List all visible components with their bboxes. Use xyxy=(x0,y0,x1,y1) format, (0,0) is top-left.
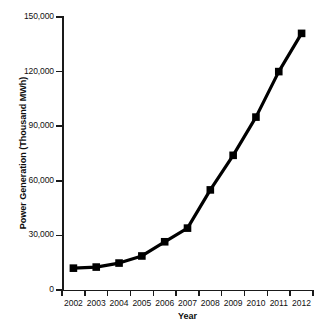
y-tick-label-0: 0 xyxy=(49,284,54,294)
y-tick-3 xyxy=(56,125,62,127)
x-tick-0 xyxy=(61,290,63,296)
data-point-marker-2008 xyxy=(207,186,215,194)
data-point-marker-2003 xyxy=(92,263,100,271)
data-point-marker-2010 xyxy=(252,113,260,121)
chart-figure: Power Generation (Thousand MWh) 030,0006… xyxy=(0,0,326,330)
y-axis-line xyxy=(62,16,64,291)
x-tick-9 xyxy=(267,290,269,296)
x-tick-1 xyxy=(84,290,86,296)
x-axis-line xyxy=(62,290,314,292)
x-tick-4 xyxy=(153,290,155,296)
x-tick-5 xyxy=(175,290,177,296)
data-point-marker-2006 xyxy=(161,238,169,246)
data-point-marker-2011 xyxy=(275,68,283,76)
y-tick-1 xyxy=(56,235,62,237)
data-point-marker-2007 xyxy=(184,224,192,232)
x-tick-7 xyxy=(221,290,223,296)
x-tick-end xyxy=(312,290,314,296)
y-tick-label-1: 30,000 xyxy=(29,229,54,239)
x-tick-label-10: 2012 xyxy=(287,298,317,308)
y-tick-5 xyxy=(56,16,62,18)
x-axis-label: Year xyxy=(62,311,313,321)
y-tick-4 xyxy=(56,71,62,73)
x-tick-8 xyxy=(244,290,246,296)
y-tick-label-5: 150,000 xyxy=(24,11,54,21)
data-point-marker-2009 xyxy=(229,152,237,160)
x-tick-6 xyxy=(198,290,200,296)
data-point-marker-2012 xyxy=(298,30,306,38)
x-tick-2 xyxy=(107,290,109,296)
y-tick-label-4: 120,000 xyxy=(24,66,54,76)
y-tick-label-group: 030,00060,00090,000120,000150,000 xyxy=(0,0,54,330)
x-tick-10 xyxy=(289,290,291,296)
x-tick-3 xyxy=(130,290,132,296)
data-point-marker-2002 xyxy=(70,264,78,272)
y-tick-2 xyxy=(56,180,62,182)
y-tick-label-2: 60,000 xyxy=(29,175,54,185)
data-point-marker-2004 xyxy=(115,259,123,267)
y-tick-label-3: 90,000 xyxy=(29,120,54,130)
data-point-marker-2005 xyxy=(138,252,146,260)
